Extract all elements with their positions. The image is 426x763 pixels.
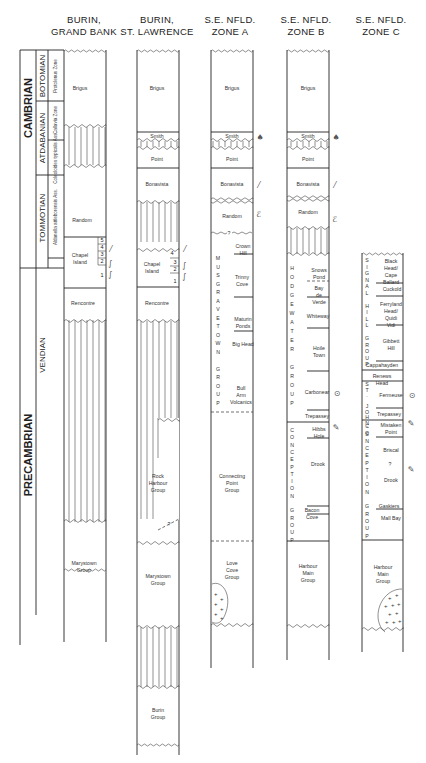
svg-text:1: 1 <box>173 278 176 284</box>
svg-text:+: + <box>398 618 402 624</box>
unit-fermeuse: Fermeuse <box>379 392 402 398</box>
unit-brigus: Brigus <box>73 85 88 91</box>
unit-rencontre: Rencontre <box>71 300 95 306</box>
group-musgravetown-vertical: MUSGRAVETOWN GROUP <box>216 255 221 406</box>
svg-text:+: + <box>214 611 218 617</box>
unit-random: Random <box>72 217 92 223</box>
ediacara-icon: ✎ <box>333 423 340 432</box>
unit-point: Point <box>151 156 163 162</box>
unit-burin-group: BurinGroup <box>151 707 166 720</box>
unit-carbonear: Carbonear <box>305 389 330 395</box>
unit-drook: Drook <box>384 477 398 483</box>
unit-gaskiers: Gaskiers <box>379 503 400 509</box>
header-zone-a-line1: S.E. NFLD. <box>204 14 255 25</box>
unit-hoile-town: HoileTown <box>313 345 325 358</box>
unit-cuckold: Cuckold <box>383 286 402 292</box>
svg-text:+: + <box>220 615 224 621</box>
unconformity <box>64 50 106 52</box>
unit-bonavista: Bonavista <box>221 181 244 187</box>
unit-point: Point <box>302 156 314 162</box>
group-hodgewater-vertical: HODGEWATER GROUP <box>290 265 295 406</box>
group-conception-vertical: CONCEPTION GROUP <box>290 427 294 543</box>
unit-brigus: Brigus <box>225 85 240 91</box>
svg-text:+: + <box>220 596 224 602</box>
unit-chapel-island: ChapelIsland <box>72 252 88 265</box>
header-zone-c-line2: ZONE C <box>362 26 400 37</box>
query-mark: ? <box>389 461 392 467</box>
unit-snows-pond: SnowsPond <box>311 267 327 280</box>
unit-love-cove-group: LoveCoveGroup <box>225 560 240 580</box>
header-zone-b-line1: S.E. NFLD. <box>280 14 331 25</box>
ediacara-icon: ✎ <box>408 419 415 428</box>
header-grand-bank-line2: GRAND BANK <box>51 26 117 37</box>
zone-protolenus: Protolenus Zone <box>53 59 58 93</box>
svg-text:+: + <box>220 606 224 612</box>
unit-bonavista: Bonavista <box>146 181 169 187</box>
svg-text:3: 3 <box>100 251 103 257</box>
unit-drook: Drook <box>311 461 325 467</box>
trace-icon: ∫ <box>182 272 186 281</box>
query-mark: ? <box>168 521 171 527</box>
unit-chapel-island: ChapelIsland <box>144 261 160 274</box>
column-headers: BURIN, GRAND BANK BURIN, ST. LAWRENCE S.… <box>51 14 406 37</box>
shell-icon: ⁄ <box>256 181 261 190</box>
svg-text:1: 1 <box>100 272 103 278</box>
group-signal-hill-vertical: SIGNAL HILL GROUP <box>365 257 369 367</box>
svg-text:+: + <box>214 591 218 597</box>
trilobite-icon: ♠ <box>332 133 339 142</box>
shell-icon: ⁄ <box>108 245 113 254</box>
svg-text:+: + <box>397 601 401 607</box>
unit-ferryland-head-quidi-vidi: FerrylandHead/QuidiVidi <box>380 301 402 328</box>
unit-connecting-point-group: ConnectingPointGroup <box>219 473 245 493</box>
unit-harbour-main-group: HarbourMainGroup <box>299 563 318 583</box>
svg-text:?: ? <box>228 230 231 236</box>
header-st-lawrence-line2: ST. LAWRENCE <box>120 26 193 37</box>
stage-tommotian: TOMMOTIAN <box>38 193 47 242</box>
unit-rencontre: Rencontre <box>145 300 169 306</box>
tillite-icon: ⊙ <box>409 391 416 400</box>
header-grand-bank-line1: BURIN, <box>67 14 101 25</box>
svg-text:+: + <box>391 602 395 608</box>
trilobite-icon: ♠ <box>256 133 263 142</box>
unit-bay-de-verde: BaydeVerde <box>312 285 326 305</box>
column-st-lawrence: Brigus Smith Point Bonavista ChapelIslan… <box>137 50 187 755</box>
stage-atdabanian: ATDABANIAN <box>38 113 47 164</box>
trace-icon: ∫ <box>108 270 112 279</box>
unit-trinny-cove: TrinnyCove <box>235 274 250 287</box>
unit-point: Point <box>226 156 238 162</box>
unit-trepassey: Trepassey <box>305 413 329 419</box>
unit-maturin-ponds: MaturinPonds <box>234 316 251 329</box>
burrow-icon: ℰ <box>333 215 338 224</box>
svg-text:5: 5 <box>100 237 103 243</box>
unit-smith: Smith <box>225 133 238 139</box>
burrow-icon: ℰ <box>257 210 262 219</box>
zone-aldanella: Aldanella attleborensis Ass. <box>53 189 58 245</box>
unit-brigus: Brigus <box>150 85 165 91</box>
svg-text:+: + <box>388 611 392 617</box>
unit-hibbs-hole: HibbsHole <box>312 426 326 439</box>
stage-botomian: BOTOMIAN <box>38 55 47 98</box>
unit-mistaken-point: MistakenPoint <box>381 422 402 435</box>
column-zone-c: ++ +++ ++ +++ BlackHead/CapeBallard Cuck… <box>362 253 415 652</box>
unit-renews-head: RenewsHead <box>373 373 392 386</box>
chapel-island-members: 4 3 2 1 <box>170 250 179 284</box>
svg-text:+: + <box>388 595 392 601</box>
timescale-column: CAMBRIAN PRECAMBRIAN BOTOMIAN ATDABANIAN… <box>20 50 64 645</box>
svg-text:3: 3 <box>173 259 176 265</box>
unit-smith: Smith <box>150 133 163 139</box>
zone-callavia: Callavia Zone <box>53 106 58 135</box>
svg-text:+: + <box>385 619 389 625</box>
svg-text:+: + <box>214 601 218 607</box>
svg-text:+: + <box>395 592 399 598</box>
unit-trepassey: Trepassey <box>377 411 401 417</box>
ediacara-icon: ✎ <box>408 465 415 474</box>
unit-cappahayden: Cappahayden <box>366 362 398 368</box>
stratigraphic-correlation-diagram: BURIN, GRAND BANK BURIN, ST. LAWRENCE S.… <box>0 0 426 763</box>
unit-random: Random <box>298 209 318 215</box>
header-st-lawrence-line1: BURIN, <box>140 14 174 25</box>
svg-text:+: + <box>384 603 388 609</box>
header-zone-b-line2: ZONE B <box>287 26 324 37</box>
unit-whiteway: Whiteway <box>307 313 330 319</box>
stage-vendian: VENDIAN <box>38 337 47 373</box>
tillite-icon: ⊙ <box>334 389 341 398</box>
